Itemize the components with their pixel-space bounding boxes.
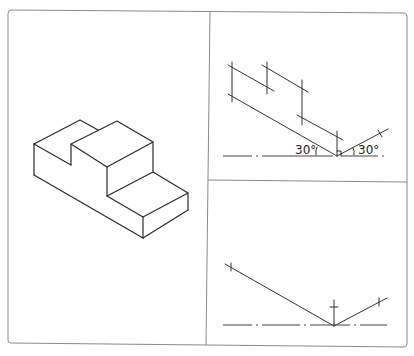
angle-label-right: 30°	[358, 143, 379, 157]
construction-bottom	[223, 263, 387, 326]
figure-frame	[8, 10, 407, 347]
isometric-block	[34, 120, 188, 238]
panel-divider-vertical	[206, 11, 210, 345]
isometric-drawing-figure: 30° 30°	[0, 0, 414, 356]
panel-divider-horizontal	[208, 180, 407, 182]
construction-top: 30° 30°	[223, 62, 388, 157]
angle-label-left: 30°	[295, 143, 316, 157]
